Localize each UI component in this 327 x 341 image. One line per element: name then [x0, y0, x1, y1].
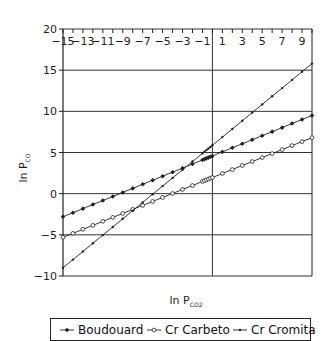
y-tick-label: −5 [41, 229, 57, 242]
x-tick-label: −1 [194, 35, 210, 48]
data-series [61, 62, 315, 269]
chart: −10−505101520 −15−13−11−9−7−5−3−113579 l… [0, 0, 327, 341]
legend-label: Cr Cromita [251, 323, 316, 337]
series-cr-cromita [62, 62, 313, 269]
y-tick-label: 15 [43, 64, 57, 77]
x-tick-label: −9 [115, 35, 131, 48]
x-tick-label: 7 [279, 35, 286, 48]
y-tick-label: 5 [50, 147, 57, 160]
x-axis-label: ln PCO2 [170, 294, 203, 308]
x-tick-label: 3 [239, 35, 246, 48]
x-tick-label: 1 [219, 35, 226, 48]
series-cr-carbeto [61, 136, 314, 239]
y-tick-label: 0 [50, 188, 57, 201]
y-tick-label: 10 [43, 105, 57, 118]
x-tick-label: −5 [154, 35, 170, 48]
legend-label: Boudouard [78, 323, 143, 337]
x-tick-label: −11 [91, 35, 114, 48]
legend-label: Cr Carbeto [165, 323, 230, 337]
x-tick-label: 5 [259, 35, 266, 48]
x-tick-label: −7 [135, 35, 151, 48]
x-axis-ticks: −15−13−11−9−7−5−3−113579 [51, 29, 312, 48]
x-tick-label: 9 [299, 35, 306, 48]
x-tick-label: −3 [174, 35, 190, 48]
legend: BoudouardCr CarbetoCr Cromita [51, 319, 316, 341]
y-axis-label: ln PCO [17, 153, 31, 182]
y-axis-ticks: −10−505101520 [34, 23, 63, 283]
y-tick-label: −10 [34, 270, 57, 283]
